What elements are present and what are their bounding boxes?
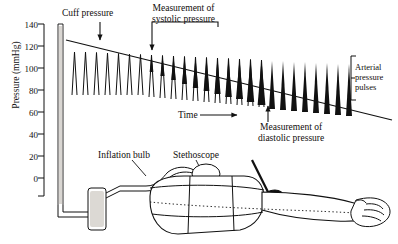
manometer-fluid [59,26,63,204]
y-axis [38,24,44,196]
pulse-waveform [72,52,352,116]
manometer-tubing [58,205,90,217]
blood-pressure-figure: Pressure (mmHg) 140 120 100 80 60 40 20 … [0,0,398,244]
arterial-pulses-brace [351,56,356,100]
arm-upper [150,176,264,234]
manometer-reservoir [88,188,106,230]
systolic-bracket [152,22,218,27]
figure-drawing [0,0,398,244]
hand [351,198,390,227]
